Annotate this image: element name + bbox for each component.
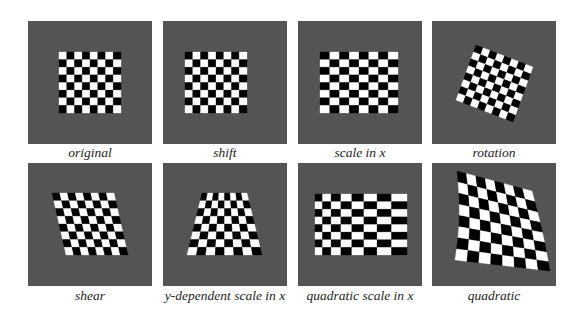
checker-cell <box>67 90 75 98</box>
checker-cell <box>82 98 90 106</box>
checker-cell <box>211 201 218 209</box>
checker-cell <box>216 60 224 68</box>
checker-cell <box>193 75 201 83</box>
checker-cell <box>198 240 208 248</box>
checker-cell <box>232 83 240 91</box>
checker-cell <box>193 224 202 232</box>
checker-cell <box>232 216 240 224</box>
panel-shift <box>163 21 287 144</box>
checker-cell <box>377 240 391 248</box>
checker-cell <box>224 52 232 60</box>
checker-cell <box>250 240 260 248</box>
checker-cell <box>377 194 391 202</box>
checker-cell <box>59 83 67 91</box>
checker-cell <box>201 90 209 98</box>
checker-cell <box>240 232 249 240</box>
checker-cell <box>212 193 219 201</box>
checker-cell <box>320 52 330 60</box>
checker-cell <box>369 60 379 68</box>
checker-cell <box>322 247 331 255</box>
checker-cell <box>349 105 359 113</box>
checker-cell <box>208 52 216 60</box>
checker-cell <box>315 225 322 233</box>
checker-cell <box>209 224 217 232</box>
checker-cell <box>59 67 67 75</box>
checker-cell <box>512 236 524 248</box>
checker-cell <box>201 75 209 83</box>
checker-cell <box>75 90 83 98</box>
checker-cell <box>364 217 377 225</box>
checkerboard-quadratic <box>432 163 556 286</box>
checkerboard-original <box>28 21 152 144</box>
checker-cell <box>185 60 193 68</box>
checker-cell <box>388 67 398 75</box>
checkerboard-y-dependent-scale <box>163 163 287 286</box>
checker-cell <box>106 83 114 91</box>
checker-cell <box>67 105 75 113</box>
checker-cell <box>352 240 364 248</box>
checker-cell <box>215 247 224 255</box>
checker-cell <box>185 52 193 60</box>
checker-cell <box>320 90 330 98</box>
checker-cell <box>524 249 536 261</box>
checker-cell <box>491 243 502 255</box>
checker-cell <box>244 209 252 217</box>
checker-cell <box>364 202 377 210</box>
checker-cell <box>239 67 247 75</box>
checker-cell <box>67 98 75 106</box>
checker-cell <box>193 67 201 75</box>
checker-cell <box>193 60 201 68</box>
checker-cell <box>379 90 389 98</box>
panel-original <box>28 21 152 144</box>
checker-cell <box>207 240 216 248</box>
checker-cell <box>379 60 389 68</box>
checker-cell <box>364 225 377 233</box>
checker-cell <box>330 98 340 106</box>
checker-cell <box>331 202 341 210</box>
checker-cell <box>455 249 468 262</box>
checker-cell <box>232 224 240 232</box>
checker-cell <box>216 240 225 248</box>
checker-cell <box>75 98 83 106</box>
checker-cell <box>67 67 75 75</box>
checker-cell <box>341 194 352 202</box>
checker-cell <box>479 252 491 264</box>
checker-cell <box>322 232 331 240</box>
checker-cell <box>233 247 243 255</box>
checker-cell <box>340 83 350 91</box>
checker-cell <box>193 105 201 113</box>
checker-cell <box>185 98 193 106</box>
checker-cell <box>208 75 216 83</box>
checker-cell <box>340 105 350 113</box>
checker-cell <box>470 218 481 231</box>
checker-cell <box>224 83 232 91</box>
checker-cell <box>459 216 470 229</box>
checker-cell <box>479 241 491 253</box>
checker-cell <box>330 90 340 98</box>
checker-cell <box>239 98 247 106</box>
checker-cell <box>315 247 322 255</box>
checker-cell <box>352 217 364 225</box>
checker-cell <box>388 75 398 83</box>
checker-cell <box>225 247 234 255</box>
checker-cell <box>369 52 379 60</box>
checker-cell <box>119 247 129 255</box>
checker-cell <box>458 227 470 240</box>
checker-cell <box>349 60 359 68</box>
checker-cell <box>233 240 242 248</box>
checker-cell <box>225 209 232 217</box>
checker-cell <box>59 52 67 60</box>
checker-cell <box>469 229 480 242</box>
checker-cell <box>352 194 364 202</box>
checker-cell <box>113 98 121 106</box>
checkerboard-shear <box>28 163 152 286</box>
checker-cell <box>391 194 407 202</box>
checker-cell <box>98 105 106 113</box>
checker-cell <box>320 60 330 68</box>
checker-cell <box>537 260 550 271</box>
checker-cell <box>193 52 201 60</box>
checker-cell <box>322 194 331 202</box>
checker-cell <box>191 232 201 240</box>
checker-cell <box>457 238 469 251</box>
checker-cell <box>98 98 106 106</box>
